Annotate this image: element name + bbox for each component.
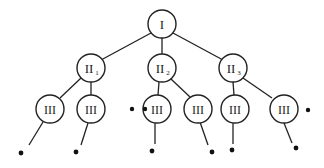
node-iii-b: III <box>77 95 105 123</box>
leaf-dot-b <box>74 150 79 155</box>
edge-ii1-iii-a <box>60 78 81 98</box>
node-ii3: II 3 <box>219 54 247 82</box>
leaf-dot-a <box>19 151 24 156</box>
ellipsis-right <box>306 108 310 112</box>
node-root-label: I <box>160 17 164 32</box>
leaf-dot-c <box>150 149 155 154</box>
node-iii-f-label: III <box>278 103 290 117</box>
node-iii-e: III <box>221 95 249 123</box>
edge-root-ii3 <box>173 33 223 60</box>
edge-iii-d-leaf <box>200 122 208 145</box>
node-iii-b-label: III <box>85 103 97 117</box>
node-root: I <box>148 10 176 38</box>
node-iii-c-label: III <box>151 103 163 117</box>
node-ii1-subscript: 1 <box>95 69 99 77</box>
ellipsis-dot <box>130 107 134 111</box>
ellipsis-dot <box>143 107 147 111</box>
leaf-dot-d <box>210 150 215 155</box>
tree-diagram: I II 1 II 2 II 3 III III III III III III <box>0 0 324 168</box>
node-ii2: II 2 <box>148 54 176 82</box>
edge-iii-a-leaf <box>29 122 43 145</box>
edge-iii-f-leaf <box>284 123 292 143</box>
node-ii1-label: II <box>85 61 94 76</box>
node-iii-d: III <box>184 95 212 123</box>
node-iii-a-label: III <box>44 103 56 117</box>
ellipsis-middle <box>130 107 147 111</box>
node-ii2-subscript: 2 <box>166 69 170 77</box>
node-ii1: II 1 <box>77 54 105 82</box>
edge-root-ii1 <box>101 33 151 60</box>
node-ii2-label: II <box>156 61 165 76</box>
edge-ii3-iii-f <box>243 78 272 98</box>
node-iii-f: III <box>270 95 298 123</box>
leaf-dots <box>19 146 299 156</box>
ellipsis-dot <box>306 108 310 112</box>
node-ii3-label: II <box>227 61 236 76</box>
edge-ii2-iii-c <box>158 82 159 95</box>
node-iii-e-label: III <box>229 103 241 117</box>
node-iii-d-label: III <box>192 103 204 117</box>
edge-ii3-iii-e <box>233 82 234 95</box>
node-iii-a: III <box>36 95 64 123</box>
edge-ii2-iii-d <box>171 79 190 97</box>
edge-iii-b-leaf <box>81 123 88 145</box>
edges <box>29 33 292 145</box>
node-ii3-subscript: 3 <box>237 69 241 77</box>
leaf-dot-f <box>294 146 299 151</box>
leaf-dot-e <box>230 148 235 153</box>
